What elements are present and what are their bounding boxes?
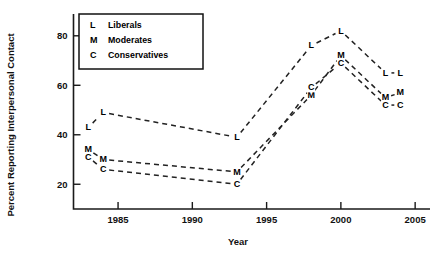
series-segment	[317, 34, 336, 43]
series-segment	[345, 35, 381, 69]
data-point-marker: M	[397, 87, 405, 97]
series-segment	[345, 60, 381, 94]
x-tick-label: 2000	[330, 214, 351, 225]
series-segment	[391, 95, 394, 96]
data-point-marker: C	[234, 179, 241, 189]
x-tick-label: 1985	[107, 214, 129, 225]
interpersonal-contact-line-chart: 20406080 19851990199520002005 Percent Re…	[0, 0, 437, 258]
data-point-marker: L	[398, 68, 404, 78]
chart-legend: LLiberalsMModeratesCConservatives	[79, 14, 203, 69]
data-point-marker: L	[338, 26, 344, 36]
legend-key-moderates: M	[90, 35, 98, 45]
series-segment	[241, 50, 308, 132]
series-segment	[316, 67, 336, 84]
data-point-marker: L	[383, 68, 389, 78]
x-axis-ticks: 19851990199520002005	[107, 202, 426, 225]
y-tick-label: 40	[57, 129, 68, 140]
y-tick-label: 20	[57, 179, 68, 190]
x-tick-label: 1995	[256, 214, 278, 225]
data-point-marker: M	[233, 167, 241, 177]
series-segment	[93, 153, 98, 156]
legend-label-liberals: Liberals	[108, 20, 142, 30]
series-segment	[345, 67, 381, 101]
legend-label-conservatives: Conservatives	[108, 50, 168, 60]
x-axis-title: Year	[228, 236, 248, 247]
data-point-marker: C	[338, 58, 345, 68]
legend-key-conservatives: C	[90, 50, 97, 60]
y-axis-ticks: 20406080	[57, 30, 81, 189]
data-point-marker: C	[397, 100, 404, 110]
data-point-marker: L	[86, 122, 92, 132]
y-tick-label: 60	[57, 80, 68, 91]
data-point-marker: C	[100, 164, 107, 174]
data-point-marker: M	[99, 154, 107, 164]
data-point-marker: L	[100, 107, 106, 117]
series-segment	[241, 93, 308, 180]
legend-key-liberals: L	[90, 20, 96, 30]
data-point-marker: L	[234, 132, 240, 142]
series-segment	[109, 114, 231, 137]
series-segment	[109, 160, 231, 171]
data-point-marker: C	[85, 152, 92, 162]
data-point-marker: L	[308, 40, 314, 50]
chart-container: 20406080 19851990199520002005 Percent Re…	[0, 0, 437, 258]
x-tick-label: 2005	[405, 214, 427, 225]
legend-label-moderates: Moderates	[108, 35, 152, 45]
data-point-marker: C	[382, 100, 389, 110]
series-segment	[93, 117, 99, 123]
series-segment	[93, 161, 99, 166]
y-axis-title: Percent Reporting Interpersonal Contact	[5, 33, 16, 217]
series-segment	[109, 170, 231, 184]
data-point-marker: C	[308, 82, 315, 92]
y-tick-label: 80	[57, 30, 68, 41]
series-segment	[241, 99, 307, 167]
x-tick-label: 1990	[182, 214, 203, 225]
